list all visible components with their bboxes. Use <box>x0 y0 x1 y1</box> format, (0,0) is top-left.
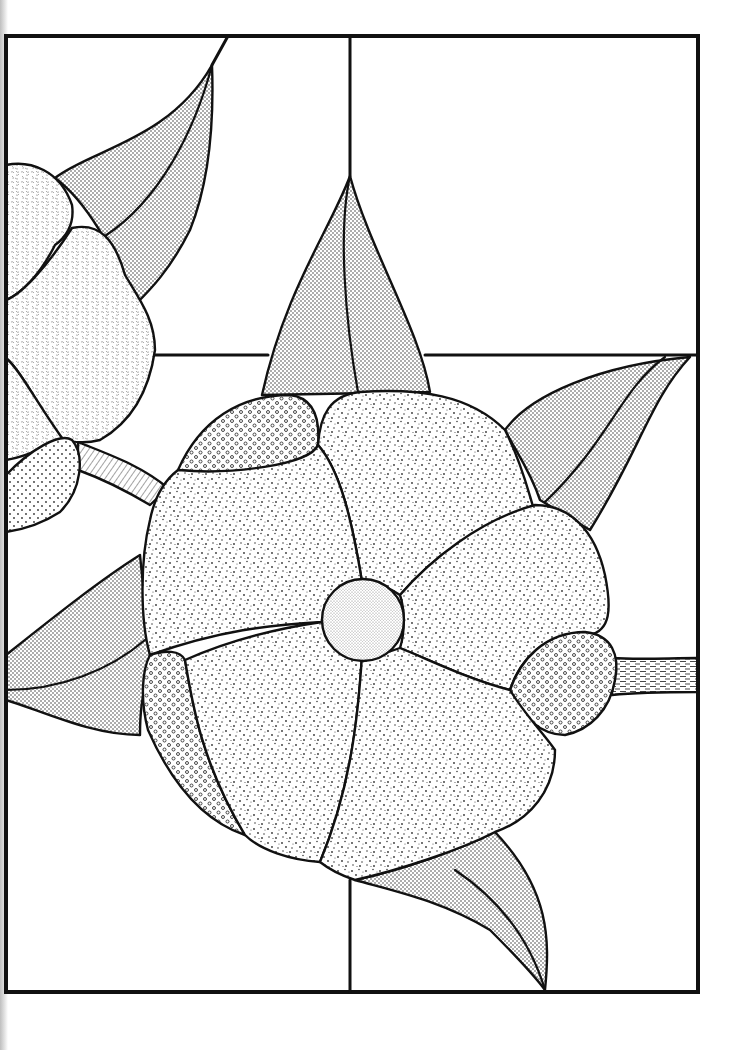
stained-glass-pattern <box>0 0 747 1050</box>
stem-right <box>612 658 698 695</box>
top-left-leaf-tip-line <box>212 36 228 65</box>
flower-center <box>322 579 404 661</box>
stem-left <box>78 442 168 505</box>
leaf-left <box>6 555 150 735</box>
